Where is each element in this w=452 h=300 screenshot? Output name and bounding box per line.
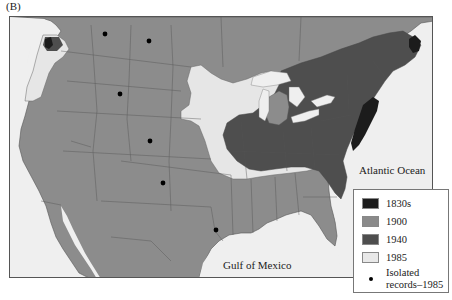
- legend-item-1985: 1985: [362, 252, 407, 263]
- gulf-of-mexico-label: Gulf of Mexico: [223, 259, 291, 271]
- atlantic-ocean-label: Atlantic Ocean: [359, 164, 425, 176]
- panel-label: (B): [6, 0, 21, 12]
- isolated-record-dot: [161, 181, 166, 186]
- legend-swatch-1900: [362, 216, 379, 227]
- legend-swatch-1940: [362, 234, 379, 245]
- legend-swatch-1830s: [362, 198, 379, 209]
- isolated-record-dot: [118, 92, 123, 97]
- legend-item-isolated: Isolated records–1985: [362, 267, 443, 291]
- isolated-record-dot: [214, 228, 219, 233]
- legend-label: records–1985: [386, 279, 443, 291]
- legend-item-1830s: 1830s: [362, 198, 411, 209]
- legend-item-1940: 1940: [362, 234, 407, 245]
- legend-swatch-1985: [362, 252, 379, 263]
- map-legend: 1830s 1900 1940 1985 Isolated records–19…: [353, 189, 449, 293]
- legend-label: 1830s: [386, 198, 411, 209]
- isolated-record-dot-icon: [362, 277, 379, 281]
- legend-label: 1985: [386, 252, 407, 263]
- legend-label: Isolated: [386, 267, 443, 279]
- isolated-record-dot: [147, 39, 152, 44]
- legend-label: 1900: [386, 216, 407, 227]
- isolated-record-dot: [148, 139, 153, 144]
- legend-item-1900: 1900: [362, 216, 407, 227]
- legend-label: 1940: [386, 234, 407, 245]
- isolated-record-dot: [103, 32, 108, 37]
